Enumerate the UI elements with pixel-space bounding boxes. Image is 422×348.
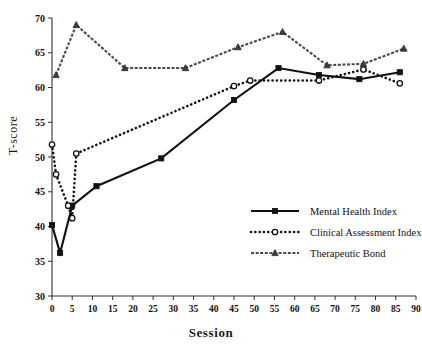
svg-text:30: 30 bbox=[169, 304, 179, 314]
x-tick: 75 bbox=[351, 296, 361, 314]
svg-text:80: 80 bbox=[371, 304, 381, 314]
data-point bbox=[57, 250, 62, 255]
x-tick: 65 bbox=[310, 296, 320, 314]
x-tick: 25 bbox=[148, 296, 158, 314]
legend-label: Therapeutic Bond bbox=[310, 248, 386, 259]
data-point bbox=[276, 65, 281, 70]
x-tick: 70 bbox=[330, 296, 340, 314]
svg-text:65: 65 bbox=[310, 304, 320, 314]
data-point bbox=[361, 67, 366, 72]
svg-text:40: 40 bbox=[209, 304, 219, 314]
data-point bbox=[73, 22, 79, 28]
data-point bbox=[65, 203, 70, 208]
y-tick: 35 bbox=[35, 256, 52, 267]
data-point bbox=[397, 70, 402, 75]
svg-text:50: 50 bbox=[249, 304, 259, 314]
legend-marker bbox=[272, 250, 278, 256]
svg-text:85: 85 bbox=[391, 304, 401, 314]
x-tick: 15 bbox=[108, 296, 118, 314]
data-point bbox=[231, 97, 236, 102]
svg-text:20: 20 bbox=[128, 304, 138, 314]
data-point bbox=[74, 151, 79, 156]
y-tick: 65 bbox=[35, 47, 52, 58]
svg-text:75: 75 bbox=[351, 304, 361, 314]
svg-text:65: 65 bbox=[35, 47, 45, 58]
data-point bbox=[49, 223, 54, 228]
x-tick: 10 bbox=[88, 296, 98, 314]
svg-text:45: 45 bbox=[229, 304, 239, 314]
svg-text:40: 40 bbox=[35, 221, 45, 232]
legend-item-clinical-assessment-index[interactable]: Clinical Assessment Index bbox=[251, 227, 422, 238]
x-tick: 35 bbox=[189, 296, 199, 314]
svg-text:35: 35 bbox=[35, 256, 45, 267]
svg-text:70: 70 bbox=[35, 13, 45, 24]
svg-text:30: 30 bbox=[35, 291, 45, 302]
y-axis-label: T-score bbox=[6, 101, 21, 171]
data-point bbox=[159, 156, 164, 161]
x-tick: 60 bbox=[290, 296, 300, 314]
data-point bbox=[235, 44, 241, 50]
x-tick: 85 bbox=[391, 296, 401, 314]
y-tick: 45 bbox=[35, 186, 52, 197]
data-point bbox=[231, 83, 236, 88]
x-tick: 5 bbox=[70, 296, 75, 314]
svg-text:50: 50 bbox=[35, 152, 45, 163]
x-tick: 90 bbox=[411, 296, 421, 314]
legend-label: Mental Health Index bbox=[310, 206, 398, 217]
y-tick: 60 bbox=[35, 82, 52, 93]
svg-text:60: 60 bbox=[35, 82, 45, 93]
data-point bbox=[94, 184, 99, 189]
x-tick: 0 bbox=[50, 296, 55, 314]
data-point bbox=[279, 29, 285, 35]
svg-text:55: 55 bbox=[35, 117, 45, 128]
legend-label: Clinical Assessment Index bbox=[310, 227, 422, 238]
y-tick: 55 bbox=[35, 117, 52, 128]
y-tick: 30 bbox=[35, 291, 52, 302]
svg-text:25: 25 bbox=[148, 304, 158, 314]
x-axis-label: Session bbox=[0, 325, 422, 341]
x-tick: 30 bbox=[169, 296, 179, 314]
data-point bbox=[316, 78, 321, 83]
data-point bbox=[401, 45, 407, 51]
y-tick: 50 bbox=[35, 152, 52, 163]
x-tick: 45 bbox=[229, 296, 239, 314]
svg-text:15: 15 bbox=[108, 304, 118, 314]
x-tick: 40 bbox=[209, 296, 219, 314]
legend-marker bbox=[272, 229, 277, 234]
data-point bbox=[53, 172, 58, 177]
y-tick: 70 bbox=[35, 13, 52, 24]
legend-item-therapeutic-bond[interactable]: Therapeutic Bond bbox=[251, 248, 386, 259]
svg-text:55: 55 bbox=[270, 304, 280, 314]
data-point bbox=[53, 72, 59, 78]
data-point bbox=[70, 215, 75, 220]
svg-text:90: 90 bbox=[411, 304, 421, 314]
data-point bbox=[316, 72, 321, 77]
x-tick: 80 bbox=[371, 296, 381, 314]
legend-marker bbox=[272, 208, 277, 213]
legend-item-mental-health-index[interactable]: Mental Health Index bbox=[251, 206, 398, 217]
chart-container: 3035404550556065700510152025303540455055… bbox=[0, 0, 422, 348]
series-therapeutic-bond bbox=[53, 22, 407, 78]
chart-plot: 3035404550556065700510152025303540455055… bbox=[0, 0, 422, 348]
series-clinical-assessment-index bbox=[49, 67, 402, 221]
x-tick: 55 bbox=[270, 296, 280, 314]
data-point bbox=[397, 81, 402, 86]
svg-text:10: 10 bbox=[88, 304, 98, 314]
data-point bbox=[247, 78, 252, 83]
svg-text:60: 60 bbox=[290, 304, 300, 314]
data-point bbox=[49, 142, 54, 147]
svg-text:35: 35 bbox=[189, 304, 199, 314]
data-point bbox=[357, 77, 362, 82]
svg-text:45: 45 bbox=[35, 186, 45, 197]
x-tick: 50 bbox=[249, 296, 259, 314]
svg-text:70: 70 bbox=[330, 304, 340, 314]
svg-text:5: 5 bbox=[70, 304, 75, 314]
chart-legend: Mental Health IndexClinical Assessment I… bbox=[251, 206, 422, 259]
svg-text:0: 0 bbox=[50, 304, 55, 314]
x-tick: 20 bbox=[128, 296, 138, 314]
